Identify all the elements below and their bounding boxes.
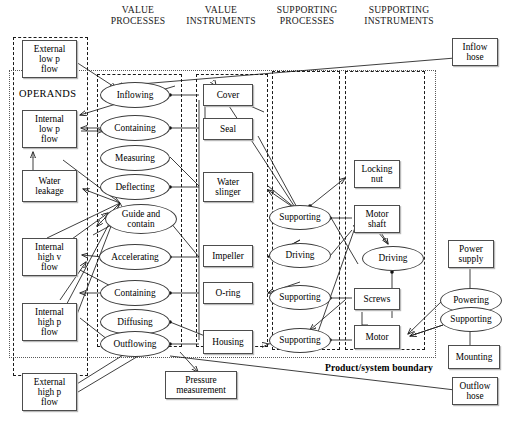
instrument-seal[interactable]: Seal [203, 118, 253, 140]
support-instrument-locking-nut[interactable]: Locking nut [354, 160, 400, 188]
external-pressure-measurement[interactable]: Pressure measurement [165, 371, 237, 399]
support-instrument-motor-shaft[interactable]: Motor shaft [354, 205, 400, 233]
column-header-supporting-instruments: SUPPORTING INSTRUMENTS [352, 4, 446, 26]
support-instrument-screws[interactable]: Screws [354, 288, 400, 310]
instrument-o-ring[interactable]: O-ring [203, 282, 253, 304]
operand-external-low-p-flow[interactable]: External low p flow [22, 40, 77, 78]
process-measuring[interactable]: Measuring [100, 145, 170, 171]
support-process-supporting-1[interactable]: Supporting [269, 205, 331, 230]
operand-water-leakage[interactable]: Water leakage [22, 170, 77, 202]
support-instrument-driving-2[interactable]: Driving [362, 246, 424, 271]
support-process-supporting-3[interactable]: Supporting [269, 328, 331, 353]
operand-internal-high-p-flow[interactable]: Internal high p flow [22, 303, 77, 341]
process-containing-lower[interactable]: Containing [100, 280, 170, 306]
external-mounting[interactable]: Mounting [448, 345, 500, 369]
product-system-boundary-label: Product/system boundary [325, 362, 433, 373]
support-instrument-motor[interactable]: Motor [354, 325, 400, 349]
column-header-value-instruments: VALUE INSTRUMENTS [178, 4, 264, 26]
process-outflowing[interactable]: Outflowing [100, 331, 170, 357]
instrument-housing[interactable]: Housing [203, 330, 253, 354]
support-process-supporting-2[interactable]: Supporting [269, 285, 331, 310]
support-process-driving-1[interactable]: Driving [269, 243, 331, 268]
external-outflow-hose[interactable]: Outflow hose [452, 377, 498, 405]
diagram-canvas: VALUE PROCESSES VALUE INSTRUMENTS SUPPOR… [0, 0, 521, 422]
column-header-value-processes: VALUE PROCESSES [100, 4, 176, 26]
external-power-supply[interactable]: Power supply [448, 240, 494, 268]
process-containing-upper[interactable]: Containing [100, 115, 170, 141]
column-header-supporting-processes: SUPPORTING PROCESSES [264, 4, 350, 26]
instrument-impeller[interactable]: Impeller [203, 245, 253, 267]
operand-internal-high-v-flow[interactable]: Internal high v flow [22, 238, 77, 276]
instrument-water-slinger[interactable]: Water slinger [203, 172, 253, 202]
external-process-supporting[interactable]: Supporting [440, 307, 502, 332]
lane-value-instruments [196, 74, 268, 347]
external-inflow-hose[interactable]: Inflow hose [452, 38, 498, 66]
process-deflecting[interactable]: Deflecting [100, 174, 170, 200]
instrument-cover[interactable]: Cover [203, 84, 253, 106]
process-guide-and-contain[interactable]: Guide and contain [105, 204, 177, 234]
process-inflowing[interactable]: Inflowing [100, 82, 170, 108]
process-accelerating[interactable]: Accelerating [99, 244, 171, 270]
operand-external-high-p-flow[interactable]: External high p flow [22, 373, 77, 411]
operand-internal-low-p-flow[interactable]: Internal low p flow [22, 110, 77, 148]
operands-label: OPERANDS [19, 88, 76, 99]
